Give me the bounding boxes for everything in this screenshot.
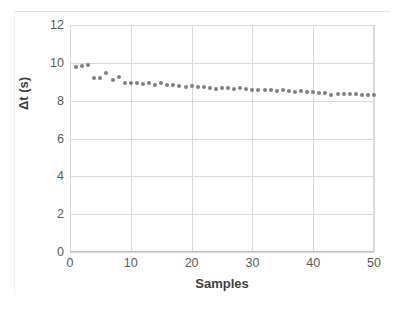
data-point — [123, 81, 127, 85]
gridline-horizontal — [70, 139, 374, 140]
gridline-vertical — [252, 25, 253, 252]
y-axis-tick-label: 6 — [18, 132, 64, 146]
data-point — [190, 84, 194, 88]
data-point — [129, 81, 133, 85]
gridline-vertical — [374, 25, 375, 252]
plot-area — [70, 25, 374, 252]
data-point — [86, 63, 90, 67]
x-axis-tick-label: 20 — [185, 256, 199, 270]
y-axis-tick-label: 10 — [18, 56, 64, 70]
gridline-vertical — [70, 25, 71, 252]
y-axis-tick-label: 2 — [18, 207, 64, 221]
data-point — [342, 92, 346, 96]
data-point — [111, 78, 115, 82]
data-point — [153, 83, 157, 87]
y-axis-tick-label: 4 — [18, 169, 64, 183]
data-point — [317, 91, 321, 95]
data-point — [263, 88, 267, 92]
data-point — [159, 81, 163, 85]
data-point — [117, 75, 121, 79]
gridline-horizontal — [70, 63, 374, 64]
data-point — [74, 65, 78, 69]
gridline-horizontal — [70, 176, 374, 177]
gridline-horizontal — [70, 252, 374, 253]
data-point — [366, 93, 370, 97]
data-point — [141, 82, 145, 86]
data-point — [80, 64, 84, 68]
y-axis-tick-labels: 024681012 — [14, 25, 64, 252]
gridline-vertical — [313, 25, 314, 252]
data-point — [220, 86, 224, 90]
gridline-vertical — [192, 25, 193, 252]
data-point — [348, 92, 352, 96]
x-axis-tick-label: 40 — [306, 256, 320, 270]
data-point — [354, 92, 358, 96]
x-axis-title: Samples — [70, 276, 374, 291]
gridline-horizontal — [70, 25, 374, 26]
data-point — [372, 93, 376, 97]
gridline-horizontal — [70, 101, 374, 102]
x-axis-tick-label: 30 — [245, 256, 259, 270]
data-point — [214, 87, 218, 91]
data-point — [269, 88, 273, 92]
x-axis-tick-label: 50 — [367, 256, 381, 270]
data-point — [293, 90, 297, 94]
x-axis-tick-label: 10 — [124, 256, 138, 270]
x-axis-baseline — [70, 251, 374, 252]
x-axis-tick-label: 0 — [67, 256, 74, 270]
data-point — [208, 86, 212, 90]
figure-top-border — [14, 11, 390, 12]
data-point — [135, 81, 139, 85]
data-point — [275, 89, 279, 93]
gridline-vertical — [131, 25, 132, 252]
y-axis-tick-label: 8 — [18, 94, 64, 108]
y-axis-tick-label: 12 — [18, 18, 64, 32]
chart-container: Δt (s) 024681012 01020304050 Samples — [0, 0, 404, 311]
gridline-horizontal — [70, 214, 374, 215]
data-point — [184, 85, 188, 89]
x-axis-tick-labels: 01020304050 — [70, 256, 374, 274]
y-axis-tick-label: 0 — [18, 245, 64, 259]
